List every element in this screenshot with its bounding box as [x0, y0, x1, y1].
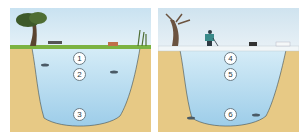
snow-icon: [276, 42, 290, 46]
fish-icon: [187, 117, 195, 120]
depth-marker-6: 6: [224, 108, 237, 121]
fish-icon: [110, 71, 118, 74]
box-icon: [249, 42, 257, 46]
boat-icon: [48, 41, 62, 44]
depth-marker-4: 4: [224, 52, 237, 65]
fish-icon: [252, 114, 260, 117]
summer-pond-panel: 1 2 3: [10, 8, 151, 132]
depth-marker-2: 2: [73, 68, 86, 81]
depth-marker-3: 3: [73, 108, 86, 121]
depth-marker-5: 5: [224, 68, 237, 81]
depth-marker-1: 1: [73, 52, 86, 65]
winter-pond-panel: 4 5 6: [158, 8, 299, 132]
fish-icon: [41, 64, 49, 67]
animal-icon: [108, 42, 118, 46]
